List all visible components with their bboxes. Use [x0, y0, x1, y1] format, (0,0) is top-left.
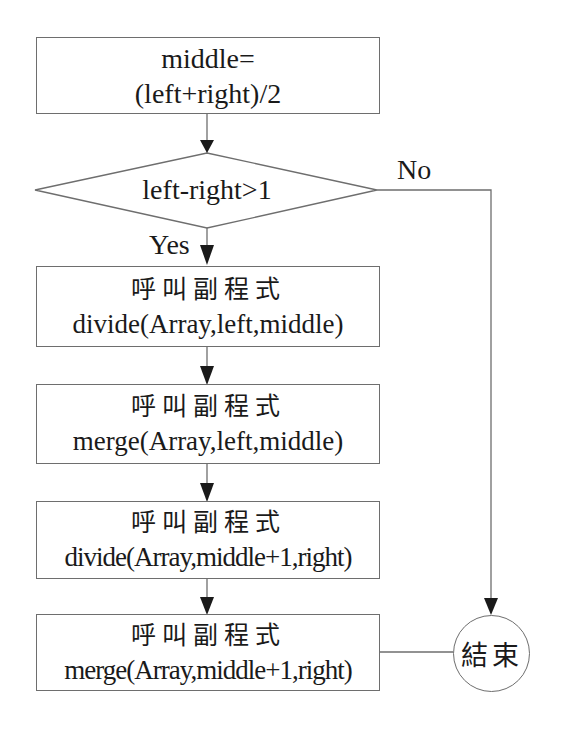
start-box-line1: middle= [161, 41, 255, 76]
yes-label: Yes [149, 230, 190, 260]
step-caption: 呼叫副程式 [131, 390, 286, 424]
arrow-down-icon [484, 598, 498, 615]
step-call: merge(Array,middle+1,right) [64, 653, 351, 687]
step-caption: 呼叫副程式 [131, 619, 286, 653]
start-box-line2: (left+right)/2 [135, 76, 281, 111]
start-box: middle= (left+right)/2 [36, 37, 380, 114]
arrow-down-icon [200, 245, 214, 265]
arrow-down-icon [200, 366, 214, 385]
arrow-down-icon [200, 597, 214, 615]
step-caption: 呼叫副程式 [131, 273, 286, 307]
arrow-down-icon [200, 140, 214, 153]
step-caption: 呼叫副程式 [131, 506, 286, 540]
step-call: divide(Array,left,middle) [72, 307, 343, 341]
step-box-merge-right: 呼叫副程式 merge(Array,middle+1,right) [36, 614, 380, 691]
step-call: merge(Array,left,middle) [73, 424, 344, 458]
step-box-divide-right: 呼叫副程式 divide(Array,middle+1,right) [36, 501, 380, 579]
arrow-down-icon [200, 483, 214, 502]
step-call: divide(Array,middle+1,right) [65, 540, 352, 574]
step-box-divide-left: 呼叫副程式 divide(Array,left,middle) [36, 266, 380, 347]
step-box-merge-left: 呼叫副程式 merge(Array,left,middle) [36, 384, 380, 464]
decision-text: left-right>1 [107, 174, 307, 206]
no-label: No [397, 155, 431, 185]
end-node-label: 結束 [461, 634, 523, 673]
end-node: 結束 [453, 615, 530, 692]
